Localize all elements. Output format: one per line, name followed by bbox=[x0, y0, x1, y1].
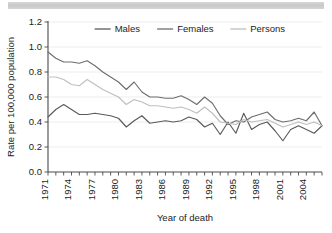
y-tick-label: 1.2 bbox=[29, 16, 42, 27]
x-tick-label: 1977 bbox=[86, 179, 97, 200]
x-tick-label: 1986 bbox=[156, 179, 167, 200]
legend-label-persons: Persons bbox=[250, 23, 285, 34]
legend-label-females: Females bbox=[177, 23, 214, 34]
x-axis-title: Year of death bbox=[157, 212, 213, 223]
y-tick-label: 0.6 bbox=[29, 91, 42, 102]
x-tick-label: 1983 bbox=[133, 179, 144, 200]
figure-canvas: 0.00.20.40.60.81.01.21971197419771980198… bbox=[0, 0, 332, 233]
x-tick-label: 1974 bbox=[62, 179, 73, 200]
line-chart: 0.00.20.40.60.81.01.21971197419771980198… bbox=[0, 8, 332, 233]
x-tick-label: 1998 bbox=[250, 179, 261, 200]
x-tick-label: 2004 bbox=[297, 179, 308, 200]
y-tick-label: 0.2 bbox=[29, 141, 42, 152]
legend-label-males: Males bbox=[115, 23, 141, 34]
y-axis-title: Rate per 100,000 population bbox=[5, 37, 16, 157]
x-tick-label: 1971 bbox=[39, 179, 50, 200]
x-tick-label: 1980 bbox=[109, 179, 120, 200]
y-tick-label: 0.4 bbox=[29, 116, 42, 127]
x-tick-label: 1995 bbox=[227, 179, 238, 200]
y-tick-label: 0.8 bbox=[29, 66, 42, 77]
y-tick-label: 1.0 bbox=[29, 41, 42, 52]
series-line-males bbox=[48, 105, 322, 141]
y-tick-label: 0.0 bbox=[29, 166, 42, 177]
x-tick-label: 1989 bbox=[180, 179, 191, 200]
x-tick-label: 2001 bbox=[274, 179, 285, 200]
x-tick-label: 1992 bbox=[203, 179, 214, 200]
